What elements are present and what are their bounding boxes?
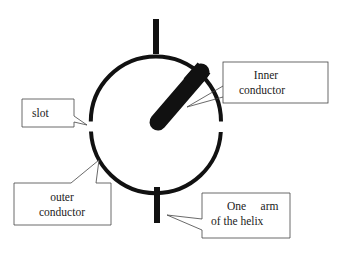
label-inner-line1: Inner xyxy=(254,69,278,81)
label-helix-line2: of the helix xyxy=(211,215,264,227)
label-outer-line1: outer xyxy=(50,191,74,203)
label-outer-line2: conductor xyxy=(39,206,85,218)
coax-helix-diagram: Inner conductor slot outer conductor One… xyxy=(0,0,343,255)
callout-helix-arm: One arm of the helix xyxy=(167,193,290,238)
label-slot: slot xyxy=(32,107,49,119)
callout-outer-conductor: outer conductor xyxy=(14,160,111,225)
inner-conductor-tip xyxy=(190,68,204,84)
label-helix-line1: One arm xyxy=(227,200,278,212)
top-helix-arm xyxy=(153,19,159,54)
label-inner-line2: conductor xyxy=(239,84,285,96)
callout-slot: slot xyxy=(22,99,87,127)
